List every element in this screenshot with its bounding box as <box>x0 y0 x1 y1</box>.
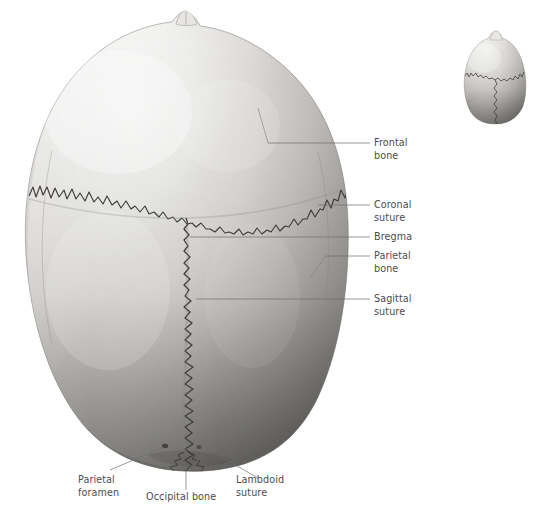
label-bregma: Bregma <box>374 231 412 242</box>
label-frontal-bone-line1: Frontal <box>374 137 408 148</box>
label-sagittal-suture-line2: suture <box>374 306 405 317</box>
skull-main <box>18 5 360 507</box>
label-parietal-foramen-line1: Parietal <box>78 474 115 485</box>
label-parietal-bone-line1: Parietal <box>374 250 411 261</box>
label-lambdoid-suture-line1: Lambdoid <box>236 474 284 485</box>
label-frontal-bone-line2: bone <box>374 150 398 161</box>
skull-superior-view-figure: Frontal bone Coronal suture Bregma Parie… <box>0 0 541 518</box>
label-parietal-bone-line2: bone <box>374 263 398 274</box>
label-occipital-bone: Occipital bone <box>146 491 216 502</box>
label-coronal-suture-line2: suture <box>374 212 405 223</box>
label-parietal-foramen-line2: foramen <box>78 487 119 498</box>
label-sagittal-suture-line1: Sagittal <box>374 293 412 304</box>
label-coronal-suture-line1: Coronal <box>374 199 412 210</box>
label-lambdoid-suture-line2: suture <box>236 487 267 498</box>
orientation-inset <box>460 26 530 128</box>
